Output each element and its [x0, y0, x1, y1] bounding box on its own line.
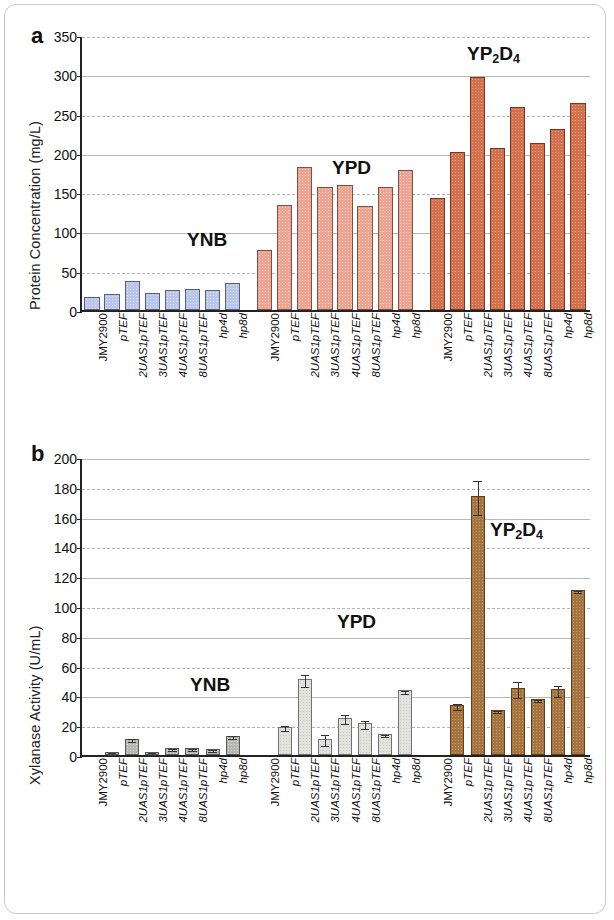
error-bar-cap [228, 739, 236, 740]
figure-frame: a Protein Concentration (mg/L) 050100150… [4, 4, 606, 914]
bar [398, 690, 412, 755]
error-bar-cap [341, 715, 349, 716]
x-axis-labels: JMY2900pTEF2UAS1pTEF3UAS1pTEF4UAS1pTEF8U… [82, 755, 590, 915]
x-tick-label: 3UAS1pTEF [157, 758, 169, 823]
y-tick-label: 100 [54, 225, 77, 241]
x-tick-label: 8UAS1pTEF [542, 758, 554, 823]
x-tick-label: 4UAS1pTEF [522, 313, 534, 378]
error-bar [325, 735, 326, 745]
x-tick-label: hp4d [217, 313, 229, 339]
bar [551, 689, 565, 755]
x-tick-label: 4UAS1pTEF [522, 758, 534, 823]
error-bar-cap [321, 735, 329, 736]
bar [450, 152, 465, 310]
error-bar-cap [188, 749, 196, 750]
x-tick-label: 8UAS1pTEF [370, 313, 382, 378]
bar [317, 187, 332, 310]
error-bar-cap [228, 736, 236, 737]
x-tick-label: pTEF [462, 758, 474, 786]
error-bar-cap [301, 687, 309, 688]
bar [225, 283, 240, 311]
error-bar-cap [574, 593, 582, 594]
bar-series-container [82, 459, 590, 755]
y-tick-label: 350 [54, 29, 77, 45]
x-tick-label: 3UAS1pTEF [502, 758, 514, 823]
y-tick-label: 0 [69, 749, 77, 765]
panel-b-plot-area: 020406080100120140160180200JMY2900pTEF2U… [80, 459, 590, 757]
x-tick-label: JMY2900 [442, 758, 454, 807]
error-bar-cap [453, 704, 461, 705]
y-tick-label: 300 [54, 68, 77, 84]
bar [257, 250, 272, 310]
error-bar-cap [381, 735, 389, 736]
error-bar-cap [361, 721, 369, 722]
y-tick-label: 140 [54, 540, 77, 556]
error-bar-cap [473, 515, 481, 516]
x-tick-label: JMY2900 [97, 313, 109, 362]
group-label-yp2d4: YP2D4 [467, 43, 520, 66]
y-tick-label: 160 [54, 511, 77, 527]
group-label-yp2d4: YP2D4 [490, 519, 543, 542]
bar [297, 167, 312, 310]
bar [145, 293, 160, 310]
y-tick-label: 50 [61, 265, 77, 281]
error-bar-cap [401, 694, 409, 695]
x-tick-label: 8UAS1pTEF [542, 313, 554, 378]
error-bar-cap [554, 686, 562, 687]
error-bar-cap [208, 752, 216, 753]
error-bar [558, 686, 559, 696]
bar [398, 170, 413, 310]
x-tick-label: JMY2900 [442, 313, 454, 362]
x-tick-label: hp8d [237, 758, 249, 784]
error-bar-cap [128, 739, 136, 740]
x-tick-label: pTEF [117, 758, 129, 786]
y-tick-label: 200 [54, 147, 77, 163]
x-tick-label: 3UAS1pTEF [329, 313, 341, 378]
y-tick-label: 180 [54, 481, 77, 497]
error-bar-cap [534, 702, 542, 703]
x-tick-label: pTEF [462, 313, 474, 341]
error-bar-cap [513, 698, 521, 699]
error-bar-cap [381, 737, 389, 738]
error-bar [305, 675, 306, 687]
x-tick-label: hp4d [562, 758, 574, 784]
group-label-ypd: YPD [332, 157, 371, 179]
error-bar-cap [473, 481, 481, 482]
error-bar-cap [281, 726, 289, 727]
x-tick-label: 2UAS1pTEF [482, 758, 494, 823]
x-tick-label: 4UAS1pTEF [350, 313, 362, 378]
x-tick-label: JMY2900 [269, 313, 281, 362]
error-bar-cap [534, 700, 542, 701]
y-tick-label: 120 [54, 570, 77, 586]
x-tick-label: hp8d [582, 313, 594, 339]
error-bar-cap [554, 697, 562, 698]
bar [125, 281, 140, 310]
x-tick-label: hp4d [562, 313, 574, 339]
bar [491, 710, 505, 755]
bar [430, 198, 445, 310]
bar [550, 129, 565, 311]
x-tick-label: hp4d [390, 313, 402, 339]
error-bar-cap [493, 711, 501, 712]
y-tick-label: 150 [54, 186, 77, 202]
y-tick-label: 20 [61, 719, 77, 735]
panel-a: a Protein Concentration (mg/L) 050100150… [5, 5, 607, 445]
error-bar-cap [168, 751, 176, 752]
error-bar-cap [493, 713, 501, 714]
x-tick-label: 3UAS1pTEF [329, 758, 341, 823]
error-bar-cap [341, 724, 349, 725]
bar [450, 705, 464, 755]
error-bar [518, 682, 519, 698]
x-tick-label: 8UAS1pTEF [370, 758, 382, 823]
bar [530, 143, 545, 310]
panel-b: b Xylanase Activity (U/mL) 0204060801001… [5, 437, 607, 915]
error-bar [345, 715, 346, 724]
bar [185, 289, 200, 310]
error-bar-cap [321, 746, 329, 747]
y-tick-label: 100 [54, 600, 77, 616]
x-tick-label: JMY2900 [269, 758, 281, 807]
error-bar-cap [401, 691, 409, 692]
bar [84, 297, 99, 310]
bar [571, 590, 585, 755]
bar [277, 205, 292, 310]
